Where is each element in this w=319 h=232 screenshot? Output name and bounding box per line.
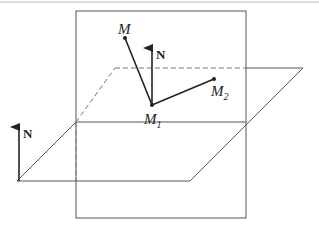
label-m: M [117, 21, 132, 37]
label-m2: M2 [210, 83, 229, 102]
plane-left-edge-hidden [76, 68, 115, 122]
vector-m1-m2 [152, 79, 214, 105]
point-m1 [150, 103, 154, 107]
vertical-plane [76, 11, 246, 218]
point-m2 [212, 77, 216, 81]
diagram-canvas: M M1 M2 N N [0, 0, 319, 232]
vector-m1-m [125, 38, 152, 105]
label-n-left: N [23, 126, 33, 141]
label-m1: M1 [143, 111, 162, 130]
label-n-vertical: N [156, 47, 166, 62]
